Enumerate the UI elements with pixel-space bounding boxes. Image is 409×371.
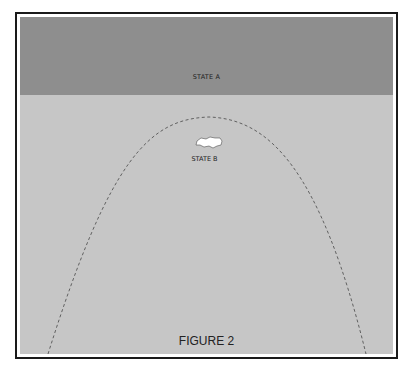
dashed-parabola — [48, 117, 366, 354]
figure-caption: FIGURE 2 — [20, 334, 393, 348]
boundary-curve — [20, 17, 393, 354]
state-b-blob — [196, 137, 222, 148]
figure-frame: STATE A STATE B FIGURE 2 — [15, 12, 398, 359]
state-b-label: STATE B — [20, 155, 393, 163]
figure-panel: STATE A STATE B FIGURE 2 — [20, 17, 393, 354]
